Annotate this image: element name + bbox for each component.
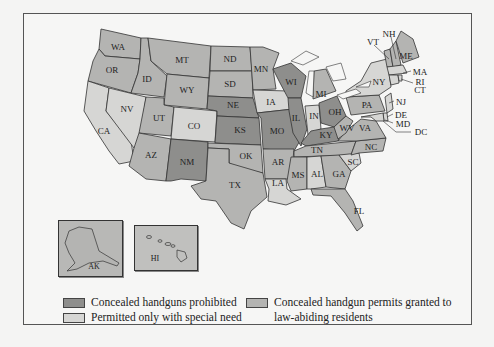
alaska-inset: AK — [58, 220, 123, 277]
label-UT: UT — [153, 113, 165, 123]
label-NM: NM — [180, 157, 195, 167]
legend-label-special-need: Permitted only with special need — [91, 311, 242, 323]
legend-label-prohibited: Concealed handguns prohibited — [91, 296, 237, 308]
label-KY: KY — [320, 130, 333, 140]
swatch-special-need — [63, 313, 85, 323]
legend-label-granted: Concealed handgun permits granted to — [274, 296, 452, 308]
legend-item-granted-line2: law-abiding residents — [274, 311, 373, 323]
hawaii-inset: HI — [134, 225, 198, 271]
label-MS: MS — [291, 170, 304, 180]
label-MD: MD — [396, 119, 411, 129]
swatch-prohibited — [63, 298, 85, 308]
label-OK: OK — [240, 151, 253, 161]
legend-item-granted: Concealed handgun permits granted to — [246, 296, 452, 308]
label-NV: NV — [121, 104, 134, 114]
state-MA — [387, 65, 407, 75]
label-WY: WY — [180, 85, 195, 95]
label-NJ: NJ — [396, 97, 406, 107]
map-frame: WA OR CA NV ID MT WY UT CO AZ NM ND SD N… — [23, 13, 472, 325]
label-OR: OR — [106, 65, 119, 75]
label-SC: SC — [347, 157, 358, 167]
label-KS: KS — [234, 125, 246, 135]
label-AZ: AZ — [145, 150, 157, 160]
us-map: WA OR CA NV ID MT WY UT CO AZ NM ND SD N… — [24, 14, 473, 326]
label-IA: IA — [266, 97, 276, 107]
label-WI: WI — [285, 77, 297, 87]
label-AL: AL — [311, 169, 323, 179]
label-CO: CO — [188, 121, 201, 131]
label-WV: WV — [340, 123, 355, 133]
label-MO: MO — [270, 126, 285, 136]
label-AR: AR — [272, 157, 285, 167]
label-TN: TN — [311, 145, 323, 155]
label-IN: IN — [309, 111, 319, 121]
label-VA: VA — [359, 123, 371, 133]
label-CA: CA — [98, 126, 111, 136]
label-MA: MA — [413, 67, 428, 77]
label-NE: NE — [227, 100, 239, 110]
legend-item-prohibited: Concealed handguns prohibited — [63, 296, 237, 308]
label-WA: WA — [111, 42, 125, 52]
label-NY: NY — [373, 77, 386, 87]
label-CT: CT — [414, 85, 426, 95]
label-MN: MN — [254, 64, 269, 74]
label-AK: AK — [88, 262, 100, 271]
label-VT: VT — [367, 37, 379, 47]
alaska-shape: AK — [59, 221, 122, 276]
legend-label-granted-line2: law-abiding residents — [274, 311, 373, 323]
label-DC: DC — [415, 127, 428, 137]
label-ND: ND — [224, 54, 237, 64]
label-GA: GA — [333, 169, 346, 179]
label-PA: PA — [362, 100, 373, 110]
label-MT: MT — [175, 55, 189, 65]
label-IL: IL — [292, 113, 301, 123]
state-RI — [398, 75, 402, 81]
label-LA: LA — [272, 178, 284, 188]
label-ME: ME — [399, 51, 413, 61]
label-OH: OH — [329, 107, 342, 117]
state-CT — [389, 75, 399, 85]
label-HI: HI — [151, 254, 160, 263]
legend-item-special-need: Permitted only with special need — [63, 311, 242, 323]
label-NC: NC — [365, 142, 378, 152]
label-NH: NH — [383, 29, 396, 39]
label-ID: ID — [142, 74, 152, 84]
hawaii-shape: HI — [135, 226, 197, 270]
label-TX: TX — [229, 180, 241, 190]
swatch-granted — [246, 298, 268, 308]
label-SD: SD — [224, 79, 236, 89]
label-MI: MI — [316, 89, 327, 99]
label-FL: FL — [354, 206, 365, 216]
